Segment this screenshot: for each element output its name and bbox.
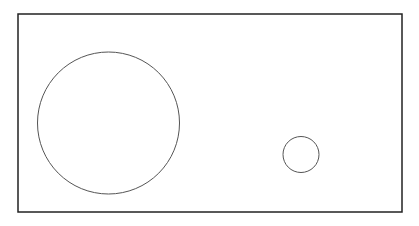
small-circle: [283, 137, 319, 173]
frame-rectangle: [18, 14, 402, 212]
large-circle: [38, 52, 180, 194]
diagram-canvas: [0, 0, 419, 226]
